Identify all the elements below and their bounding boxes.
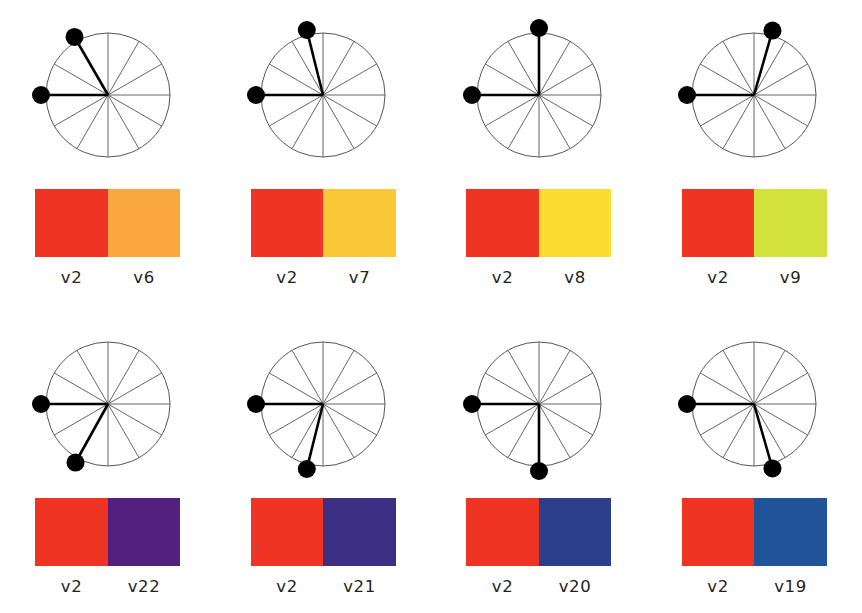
swatch-label-left: v2 [251, 577, 324, 596]
dial-spoke [754, 95, 785, 149]
dial-spoke [323, 95, 377, 126]
dial-spoke [323, 350, 354, 404]
reference-arm-dot [678, 395, 696, 413]
dial-spoke [754, 404, 785, 458]
dial-spoke [270, 404, 324, 435]
swatch-label-right: v21 [323, 577, 396, 596]
dial-spoke [323, 404, 377, 435]
dial-spoke [754, 95, 808, 126]
color-swatch-pair [251, 498, 396, 566]
dial-spoke [539, 64, 593, 95]
variable-arm [74, 37, 108, 95]
swatch-labels: v2v20 [466, 577, 611, 596]
swatch-label-right: v19 [754, 577, 827, 596]
dial-spoke [270, 373, 324, 404]
dial-spoke [108, 95, 162, 126]
swatch-label-left: v2 [35, 577, 108, 596]
reference-arm-dot [247, 395, 265, 413]
variable-arm [754, 404, 772, 468]
dial-spoke [323, 373, 377, 404]
dial-wrap [248, 18, 398, 173]
dial-spoke [723, 350, 754, 404]
dial-spoke [723, 41, 754, 95]
dial-spoke [508, 404, 539, 458]
swatch-label-left: v2 [682, 268, 755, 287]
dial-spoke [108, 404, 139, 458]
swatch-labels: v2v21 [251, 577, 396, 596]
dial-spoke [292, 41, 323, 95]
dial-wrap [679, 327, 829, 482]
swatch-label-right: v7 [323, 268, 396, 287]
swatch-half-left [251, 189, 324, 257]
dial-spoke [485, 373, 539, 404]
dial-spoke [701, 64, 755, 95]
swatch-label-left: v2 [251, 268, 324, 287]
dial-spoke [723, 95, 754, 149]
swatch-label-left: v2 [35, 268, 108, 287]
swatch-half-right [108, 498, 181, 566]
dial-spoke [701, 95, 755, 126]
swatch-label-right: v22 [108, 577, 181, 596]
dial-diagram [464, 18, 614, 173]
dial-spoke [108, 373, 162, 404]
panel-grid: v2v6v2v7v2v8v2v9v2v22v2v21v2v20v2v19 [0, 0, 862, 613]
swatch-half-left [251, 498, 324, 566]
variable-arm-dot [764, 22, 782, 40]
dial-wrap [464, 327, 614, 482]
dial-spoke [539, 41, 570, 95]
swatch-label-left: v2 [466, 268, 539, 287]
dial-spoke [77, 95, 108, 149]
dial-spoke [77, 350, 108, 404]
dial-spoke [54, 373, 108, 404]
swatch-half-right [539, 498, 612, 566]
dial-diagram [33, 327, 183, 482]
dial-spoke [539, 95, 570, 149]
color-swatch-pair [466, 189, 611, 257]
panel-v2-v19: v2v19 [647, 307, 862, 613]
swatch-half-left [682, 498, 755, 566]
swatch-half-right [108, 189, 181, 257]
color-swatch-pair [682, 498, 827, 566]
dial-spoke [485, 95, 539, 126]
swatch-label-right: v20 [539, 577, 612, 596]
variable-arm-dot [764, 459, 782, 477]
color-swatch-pair [466, 498, 611, 566]
panel-v2-v22: v2v22 [0, 307, 216, 613]
swatch-labels: v2v22 [35, 577, 180, 596]
panel-v2-v8: v2v8 [431, 0, 647, 307]
dial-diagram [248, 327, 398, 482]
dial-spoke [723, 404, 754, 458]
dial-spoke [539, 350, 570, 404]
dial-spoke [270, 95, 324, 126]
dial-spoke [292, 350, 323, 404]
swatch-half-right [323, 498, 396, 566]
reference-arm-dot [32, 86, 50, 104]
swatch-half-right [754, 189, 827, 257]
swatch-labels: v2v19 [682, 577, 827, 596]
dial-wrap [33, 18, 183, 173]
panel-v2-v6: v2v6 [0, 0, 216, 307]
dial-spoke [701, 373, 755, 404]
variable-arm [754, 31, 772, 95]
dial-spoke [485, 64, 539, 95]
dial-spoke [508, 350, 539, 404]
swatch-half-left [35, 498, 108, 566]
dial-wrap [33, 327, 183, 482]
dial-spoke [323, 41, 354, 95]
swatch-half-left [35, 189, 108, 257]
reference-arm-dot [463, 395, 481, 413]
variable-arm-dot [66, 453, 84, 471]
swatch-labels: v2v8 [466, 268, 611, 287]
variable-arm-dot [530, 462, 548, 480]
reference-arm-dot [247, 86, 265, 104]
dial-spoke [539, 404, 593, 435]
reference-arm-dot [678, 86, 696, 104]
swatch-label-right: v6 [108, 268, 181, 287]
panel-v2-v7: v2v7 [216, 0, 432, 307]
dial-diagram [679, 18, 829, 173]
dial-spoke [323, 64, 377, 95]
dial-spoke [108, 95, 139, 149]
color-swatch-pair [251, 189, 396, 257]
dial-wrap [248, 327, 398, 482]
reference-arm-dot [463, 86, 481, 104]
